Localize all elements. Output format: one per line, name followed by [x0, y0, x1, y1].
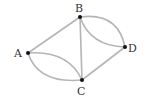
node-b	[78, 15, 82, 19]
label-b: B	[75, 2, 83, 15]
edge-a-b	[28, 17, 80, 53]
label-d: D	[128, 42, 137, 55]
node-a	[26, 51, 30, 55]
edge-b-c	[80, 17, 82, 80]
label-a: A	[13, 47, 23, 60]
edge-b-d-lower	[80, 17, 125, 47]
edge-c-d	[82, 47, 125, 80]
label-c: C	[77, 85, 85, 98]
graph-diagram: A B C D	[0, 0, 145, 98]
node-c	[80, 78, 84, 82]
node-d	[123, 45, 127, 49]
